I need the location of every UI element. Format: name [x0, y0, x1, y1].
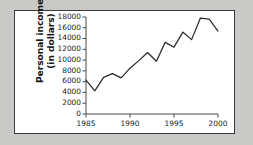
- x-tick-label: 1995: [160, 120, 188, 128]
- y-tick-label: 0: [76, 110, 81, 118]
- y-tick-marks: [83, 17, 87, 114]
- y-tick-label: 14000: [57, 34, 81, 42]
- y-tick-label: 18000: [57, 13, 81, 21]
- x-tick-label: 2000: [204, 120, 232, 128]
- x-tick-label: 1990: [116, 120, 144, 128]
- x-tick-marks: [86, 114, 218, 118]
- y-tick-label: 16000: [57, 24, 81, 32]
- plot-area: 1800016000140001200010000800060004000200…: [15, 11, 236, 135]
- chart-panel: Personal income (in dollars) 18000160001…: [14, 10, 235, 134]
- y-tick-label: 10000: [57, 56, 81, 64]
- y-tick-label: 8000: [62, 67, 81, 75]
- y-tick-label: 4000: [62, 88, 81, 96]
- data-series-line: [86, 18, 218, 91]
- y-tick-label: 6000: [62, 77, 81, 85]
- y-tick-label: 2000: [62, 99, 81, 107]
- line-chart-svg: [15, 11, 236, 135]
- y-tick-label: 12000: [57, 45, 81, 53]
- x-tick-label: 1985: [72, 120, 100, 128]
